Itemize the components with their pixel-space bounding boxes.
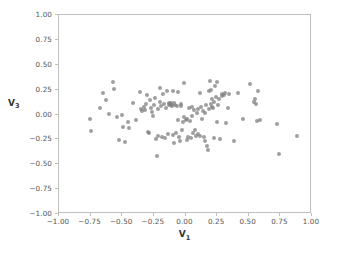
scatter-point [126,120,130,124]
y-tick-label: 0.00 [13,110,52,119]
y-tick-mark [55,14,58,15]
x-tick-label: 1.00 [291,217,331,226]
scatter-point [104,98,108,102]
scatter-point [158,86,162,90]
scatter-point [134,118,138,122]
x-tick-mark [90,213,91,216]
scatter-point [172,141,176,145]
scatter-point [190,114,194,118]
x-axis-label-base: V [179,229,186,239]
scatter-point [111,80,115,84]
scatter-point [215,120,219,124]
scatter-point [151,114,155,118]
plot-area [58,14,311,213]
scatter-point [227,92,231,96]
scatter-point [209,88,213,92]
scatter-point [182,81,186,85]
scatter-point [208,79,212,83]
scatter-point [200,117,204,121]
x-tick-mark [58,213,59,216]
scatter-point [163,136,167,140]
y-tick-label: −1.00 [13,209,52,218]
scatter-point [226,106,230,110]
scatter-point [145,93,149,97]
scatter-point [277,152,281,156]
x-tick-mark [279,213,280,216]
scatter-point [161,92,165,96]
scatter-point [152,103,156,107]
scatter-point [179,104,183,108]
scatter-point [176,118,180,122]
scatter-point [236,91,240,95]
y-tick-mark [55,114,58,115]
scatter-point [218,137,222,141]
x-axis-label-subscript: 1 [186,234,191,242]
scatter-point [224,121,228,125]
x-tick-mark [153,213,154,216]
y-tick-mark [55,138,58,139]
scatter-point [203,139,207,143]
scatter-point [248,82,252,86]
scatter-point [216,103,220,107]
x-tick-mark [311,213,312,216]
scatter-point [275,122,279,126]
scatter-point [89,129,93,133]
scatter-point [232,139,236,143]
scatter-point [254,102,258,106]
y-tick-label: −0.50 [13,159,52,168]
scatter-point [115,115,119,119]
scatter-point [166,132,170,136]
y-tick-mark [55,213,58,214]
scatter-point [203,111,207,115]
scatter-point [162,102,166,106]
scatter-point [123,140,127,144]
scatter-point [98,106,102,110]
scatter-point [212,136,216,140]
scatter-point [178,139,182,143]
x-tick-mark [248,213,249,216]
scatter-points-layer [59,15,310,212]
scatter-point [155,154,159,158]
scatter-point [176,90,180,94]
y-tick-label: 0.50 [13,60,52,69]
y-tick-label: 1.00 [13,10,52,19]
scatter-point [206,148,210,152]
scatter-point [156,134,160,138]
scatter-point [138,90,142,94]
scatter-point [131,101,135,105]
scatter-point [88,117,92,121]
scatter-point [112,87,116,91]
scatter-point [165,89,169,93]
scatter-point [148,98,152,102]
y-tick-mark [55,89,58,90]
scatter-point [253,97,257,101]
scatter-point [180,128,184,132]
x-tick-mark [185,213,186,216]
scatter-point [144,102,148,106]
y-tick-mark [55,64,58,65]
scatter-point [107,112,111,116]
scatter-point [198,91,202,95]
y-tick-label: −0.75 [13,184,52,193]
y-tick-label: −0.25 [13,134,52,143]
y-tick-mark [55,163,58,164]
scatter-point [101,91,105,95]
scatter-point [153,96,157,100]
scatter-point [215,80,219,84]
scatter-point [171,89,175,93]
scatter-point [147,131,151,135]
scatter-point [117,138,121,142]
scatter-point [120,113,124,117]
scatter-point [295,134,299,138]
scatter-point [188,119,192,123]
scatter-point [121,125,125,129]
y-tick-mark [55,188,58,189]
y-tick-label: 0.75 [13,35,52,44]
y-axis-label: V3 [8,98,20,111]
scatter-point [189,136,193,140]
x-tick-mark [121,213,122,216]
scatter-point [143,108,147,112]
scatter-point [195,111,199,115]
scatter-plot-figure: V3 −1.00−0.75−0.50−0.250.000.250.500.751… [0,0,339,255]
x-axis-label: V1 [58,229,311,242]
